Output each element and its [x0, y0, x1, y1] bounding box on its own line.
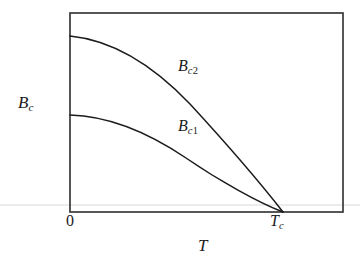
plot-frame [70, 13, 343, 212]
x-axis-label-base: T [198, 236, 207, 255]
curve-label-bc2-base: B [178, 57, 188, 74]
curve-bc2 [70, 36, 283, 212]
y-axis-label-sub: c [28, 101, 33, 113]
x-axis-tc-tick-label: Tc [270, 213, 284, 229]
curve-label-bc2: Bc2 [178, 58, 198, 74]
curve-bc1 [70, 115, 283, 212]
curve-label-bc2-sub: c [188, 65, 193, 76]
x-axis-tc-base: T [270, 212, 279, 229]
curve-label-bc2-index: 2 [193, 65, 198, 76]
curve-label-bc1-sub: c [188, 125, 193, 136]
y-axis-label: Bc [18, 94, 34, 111]
critical-field-phase-diagram-figure: Bc Bc2 Bc1 0 Tc T [0, 0, 360, 264]
curve-label-bc1: Bc1 [178, 118, 198, 134]
curve-label-bc1-index: 1 [193, 125, 198, 136]
x-axis-tc-sub: c [279, 220, 284, 231]
x-axis-origin-tick-label: 0 [66, 213, 74, 229]
y-axis-label-base: B [18, 93, 28, 112]
curve-label-bc1-base: B [178, 117, 188, 134]
x-axis-label: T [198, 237, 207, 254]
